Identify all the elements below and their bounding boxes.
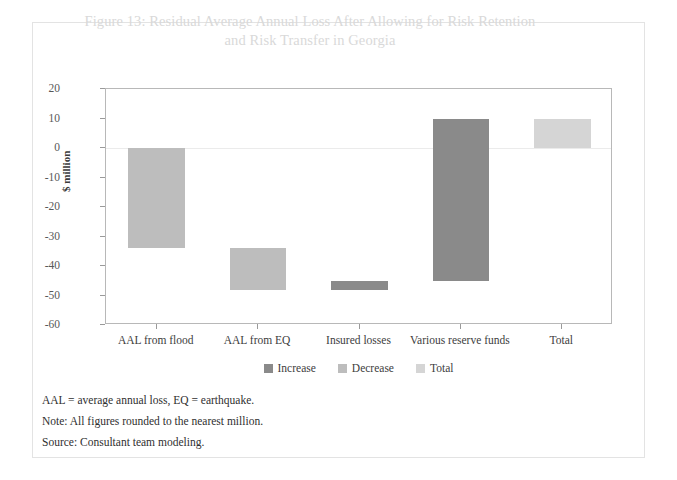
figure-notes: AAL = average annual loss, EQ = earthqua… xyxy=(42,390,602,453)
x-axis-tick: Various reserve funds xyxy=(409,333,510,347)
y-axis-tick: -40 xyxy=(20,259,60,271)
bar-aal-from-flood xyxy=(128,148,185,248)
x-axis-tick-mark xyxy=(257,324,258,329)
legend-item: Decrease xyxy=(338,362,394,374)
legend-label: Decrease xyxy=(352,362,394,374)
legend-swatch-icon xyxy=(416,364,425,373)
plot-area xyxy=(105,88,612,324)
x-axis-tick: AAL from flood xyxy=(105,333,206,347)
note-line: Source: Consultant team modeling. xyxy=(42,432,602,453)
bar-total xyxy=(534,119,591,149)
x-axis-tick-mark xyxy=(460,324,461,329)
y-axis-title: $ million xyxy=(60,151,72,192)
x-axis-tick-mark xyxy=(359,324,360,329)
bar-aal-from-eq xyxy=(230,248,287,289)
y-axis-tick: -10 xyxy=(20,171,60,183)
legend-swatch-icon xyxy=(338,364,347,373)
x-axis-tick-mark xyxy=(561,324,562,329)
x-axis-tick: Insured losses xyxy=(308,333,409,347)
legend-swatch-icon xyxy=(264,364,273,373)
bar-insured-losses xyxy=(331,281,388,290)
y-axis-tick: -30 xyxy=(20,230,60,242)
x-axis-tick: AAL from EQ xyxy=(206,333,307,347)
y-axis-tick-mark xyxy=(100,324,105,325)
note-line: Note: All figures rounded to the nearest… xyxy=(42,411,602,432)
y-axis-tick: -20 xyxy=(20,200,60,212)
bar-various-reserve-funds xyxy=(433,119,490,281)
y-axis-tick: 20 xyxy=(20,82,60,94)
y-axis-tick: -60 xyxy=(20,318,60,330)
chart-legend: IncreaseDecreaseTotal xyxy=(105,362,612,374)
x-axis-tick: Total xyxy=(511,333,612,347)
note-line: AAL = average annual loss, EQ = earthqua… xyxy=(42,390,602,411)
legend-item: Total xyxy=(416,362,453,374)
x-axis-tick-mark xyxy=(156,324,157,329)
y-axis-tick: -50 xyxy=(20,289,60,301)
legend-label: Increase xyxy=(278,362,316,374)
legend-item: Increase xyxy=(264,362,316,374)
y-axis-tick: 10 xyxy=(20,112,60,124)
legend-label: Total xyxy=(430,362,453,374)
y-axis-tick: 0 xyxy=(20,141,60,153)
